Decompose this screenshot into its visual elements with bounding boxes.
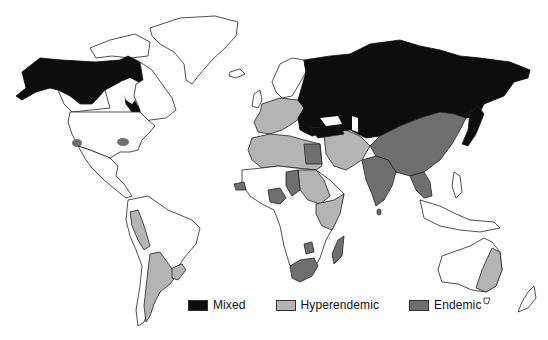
map-legend: Mixed Hyperendemic Endemic (188, 297, 511, 313)
legend-item-mixed: Mixed (188, 298, 246, 312)
indonesia (420, 200, 500, 232)
legend-label: Mixed (213, 298, 246, 312)
iceland (229, 69, 245, 78)
caspian-sea (352, 116, 358, 132)
egypt-endemic (304, 144, 322, 164)
philippines (452, 172, 462, 198)
senegal-endemic (234, 182, 246, 190)
greenland (150, 16, 238, 84)
world-map (0, 0, 548, 340)
legend-item-hyperendemic: Hyperendemic (276, 298, 380, 312)
mixed-swatch-icon (188, 300, 208, 311)
arctic-islands (90, 34, 150, 58)
legend-label: Endemic (434, 298, 481, 312)
central-usa-endemic-patch (117, 138, 129, 146)
zimbabwe-endemic (304, 242, 314, 254)
western-europe-hyperendemic (254, 98, 304, 134)
madagascar-endemic (332, 236, 344, 264)
endemic-swatch-icon (409, 300, 429, 311)
legend-item-endemic: Endemic (409, 298, 481, 312)
legend-label: Hyperendemic (301, 298, 380, 312)
southeast-asia-endemic (410, 172, 432, 198)
new-zealand (518, 286, 536, 312)
california-endemic-patch (72, 139, 82, 147)
hyperendemic-swatch-icon (276, 300, 296, 311)
sri-lanka-endemic (377, 209, 381, 215)
world-map-figure: Mixed Hyperendemic Endemic (0, 0, 548, 340)
uk (252, 90, 262, 108)
